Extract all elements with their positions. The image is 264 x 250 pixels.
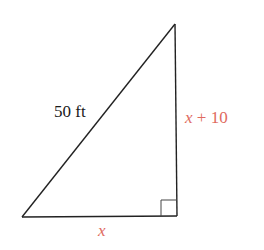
vertical-leg-constant: + 10 bbox=[193, 108, 228, 127]
horizontal-leg-label: x bbox=[97, 221, 106, 240]
hypotenuse-label: 50 ft bbox=[54, 102, 86, 121]
right-angle-marker bbox=[161, 200, 177, 216]
right-triangle-diagram: 50 ft x + 10 x bbox=[0, 0, 264, 250]
triangle bbox=[22, 24, 177, 217]
hypotenuse-edge bbox=[22, 24, 175, 217]
vertical-leg-label: x + 10 bbox=[184, 108, 228, 127]
horizontal-leg-edge bbox=[22, 216, 177, 217]
vertical-leg-edge bbox=[175, 24, 177, 216]
